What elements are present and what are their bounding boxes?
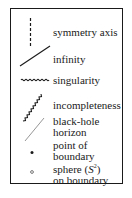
point-of-boundary-icon (31, 151, 34, 154)
black-hole-horizon-icon (25, 118, 44, 141)
sphere-label-line2: on boundary (53, 175, 108, 186)
black-hole-label-line2: horizon (53, 127, 87, 138)
sphere-on-boundary-icon (31, 171, 34, 174)
incompleteness-label: incompleteness (53, 100, 121, 111)
infinity-icon (20, 46, 50, 66)
infinity-label: infinity (53, 54, 85, 65)
symmetry-axis-label: symmetry axis (53, 27, 117, 38)
singularity-label: singularity (53, 75, 100, 86)
point-of-boundary-label-line2: boundary (53, 151, 95, 162)
incompleteness-icon (23, 94, 42, 121)
singularity-icon (21, 79, 49, 80)
